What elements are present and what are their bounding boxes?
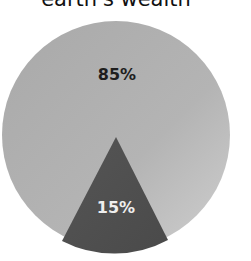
slice-label-85: 85% <box>98 65 136 84</box>
pie-chart <box>0 0 251 261</box>
slice-label-15: 15% <box>97 198 135 217</box>
